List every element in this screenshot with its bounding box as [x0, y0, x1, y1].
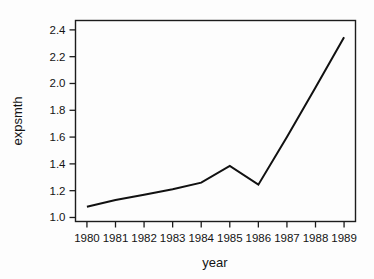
- x-tick-label: 1980: [74, 232, 100, 244]
- y-tick-label: 2.4: [50, 24, 67, 36]
- y-tick-label: 1.8: [50, 104, 66, 116]
- y-tick-label: 1.6: [50, 131, 66, 143]
- x-tick-label: 1987: [274, 232, 300, 244]
- x-tick-label: 1981: [103, 232, 129, 244]
- x-tick-label: 1989: [331, 232, 357, 244]
- y-axis-title: expsmth: [10, 96, 25, 145]
- x-tick-label: 1988: [303, 232, 329, 244]
- x-axis-title: year: [202, 255, 228, 270]
- x-tick-label: 1986: [246, 232, 272, 244]
- x-tick-label: 1985: [217, 232, 243, 244]
- y-tick-label: 2.0: [50, 77, 66, 89]
- chart-figure: 1.01.21.41.61.82.02.22.4 198019811982198…: [0, 0, 374, 279]
- y-tick-label: 1.4: [50, 158, 67, 170]
- y-tick-label: 1.0: [50, 211, 66, 223]
- x-tick-label: 1983: [160, 232, 186, 244]
- x-tick-label: 1982: [131, 232, 157, 244]
- x-tick-label: 1984: [188, 232, 214, 244]
- y-tick-label: 1.2: [50, 185, 66, 197]
- y-tick-label: 2.2: [50, 51, 66, 63]
- line-chart: 1.01.21.41.61.82.02.22.4 198019811982198…: [0, 0, 374, 279]
